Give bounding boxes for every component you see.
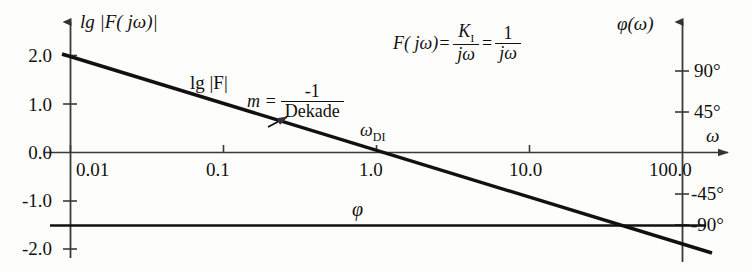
y-axis-right-title: φ(ω) [617, 14, 654, 33]
formula-frac2-denominator: jω [495, 43, 521, 63]
y-tick-label-minus1: -1.0 [0, 191, 52, 210]
slope-denominator: Dekade [281, 101, 344, 121]
x-tick-label-100.0: 100.0 [649, 160, 692, 179]
crossover-frequency-annotation: ωDI [360, 121, 385, 143]
y-tick-label-minus2: -2.0 [0, 239, 52, 258]
y-tick-label-0: 0.0 [4, 143, 52, 162]
slope-numerator: -1 [301, 82, 324, 101]
formula-fraction-1: KI jω [453, 22, 479, 64]
formula-frac2-numerator: 1 [500, 24, 517, 43]
formula-equals: = [482, 33, 492, 54]
slope-annotation: m = -1 Dekade [247, 82, 344, 121]
magnitude-curve [62, 54, 712, 253]
x-tick-label-10.0: 10.0 [509, 160, 542, 179]
phase-tick-label-45: 45° [694, 102, 721, 121]
crossover-omega-subscript: DI [373, 130, 386, 144]
magnitude-curve-label: lg |F| [190, 73, 228, 92]
slope-prefix: m = [247, 91, 277, 112]
crossover-omega-symbol: ω [360, 120, 373, 140]
y-tick-label-1: 1.0 [4, 95, 52, 114]
formula-frac1-numerator: KI [454, 22, 478, 44]
formula-fraction-2: 1 jω [495, 24, 521, 63]
y-axis-left-title: lg |F( jω)| [80, 12, 158, 31]
x-tick-label-0.01: 0.01 [76, 160, 109, 179]
slope-fraction: -1 Dekade [281, 82, 344, 121]
y-tick-label-2: 2.0 [4, 46, 52, 65]
phase-curve-label: φ [352, 199, 363, 219]
x-tick-label-0.1: 0.1 [206, 160, 230, 179]
transfer-function-formula: F( jω)= KI jω = 1 jω [393, 22, 521, 64]
phase-tick-label-minus45: -45° [691, 184, 724, 203]
formula-lhs: F( jω)= [393, 33, 450, 54]
phase-tick-label-minus90: -90° [691, 215, 724, 234]
x-axis-title: ω [706, 126, 719, 145]
formula-frac1-denominator: jω [453, 44, 479, 64]
phase-tick-label-90: 90° [694, 61, 721, 80]
x-tick-label-1.0: 1.0 [359, 160, 383, 179]
bode-plot-figure: 2.0 1.0 0.0 -1.0 -2.0 0.01 0.1 1.0 10.0 … [0, 0, 751, 272]
